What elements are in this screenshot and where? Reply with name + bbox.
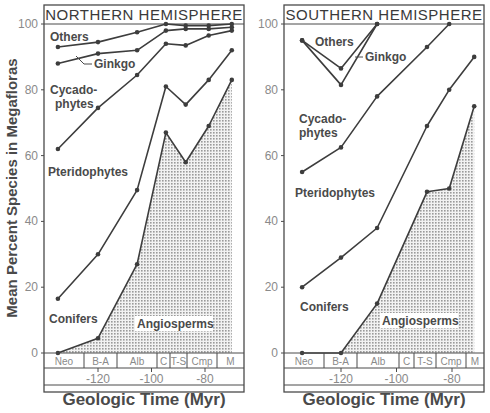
y-tick-label: 0 <box>271 346 278 360</box>
conifers-point <box>375 226 380 231</box>
y-tick-label: 0 <box>31 346 38 360</box>
south-label-conifers: Conifers <box>300 300 349 314</box>
stage-label: Alb <box>130 356 145 367</box>
conifers-point <box>56 296 61 301</box>
conifers-point <box>206 78 211 83</box>
pteridophytes-point <box>375 94 380 99</box>
conifers-point <box>135 188 140 193</box>
south-stage-row: NeoB-AAlbCT-SCmpM <box>284 353 484 368</box>
pteridophytes-point <box>56 147 61 152</box>
x-tick-label: -80 <box>443 372 461 386</box>
angiosperms-point <box>472 104 477 109</box>
ginkgo-point <box>183 23 188 28</box>
stage-label: C <box>160 356 167 367</box>
north-label-cycado-1: Cycado- <box>50 83 97 97</box>
ginkgo-point <box>206 23 211 28</box>
stage-label: B-A <box>332 356 349 367</box>
ginkgo-point <box>135 30 140 35</box>
north-title: NORTHERN HEMISPHERE <box>45 6 243 23</box>
conifers-point <box>164 84 169 89</box>
y-tick-label: 20 <box>265 280 279 294</box>
y-tick-label: 100 <box>18 17 38 31</box>
north-stage-row: NeoB-AAlbCT-SCmpM <box>44 353 244 368</box>
stage-label: Cmp <box>191 356 213 367</box>
pteridophytes-point <box>206 33 211 38</box>
conifers-point <box>183 102 188 107</box>
angiosperms-point <box>183 160 188 165</box>
angiosperms-point <box>135 262 140 267</box>
ginkgo-point <box>300 38 305 43</box>
angiosperms-point <box>206 124 211 129</box>
ginkgo-point <box>164 22 169 27</box>
stage-label: Alb <box>371 356 386 367</box>
ginkgo-point <box>56 45 61 50</box>
northern-hemisphere-panel: NORTHERN HEMISPHERE 020406080100 NeoB-AA… <box>18 5 244 409</box>
angiosperms-point <box>447 186 452 191</box>
stage-label: Neo <box>295 356 314 367</box>
cycadophytes-point <box>135 48 140 53</box>
pteridophytes-point <box>96 106 101 111</box>
x-tick-label: -120 <box>86 372 110 386</box>
y-tick-label: 40 <box>265 214 279 228</box>
pteridophytes-point <box>425 45 430 50</box>
north-x-ticks: -120-100-80 <box>86 368 214 386</box>
conifers-point <box>472 55 477 60</box>
cycadophytes-point <box>96 51 101 56</box>
x-tick-label: -100 <box>139 372 163 386</box>
stage-label: Neo <box>55 356 74 367</box>
pteridophytes-point <box>135 73 140 78</box>
angiosperms-point <box>425 190 430 195</box>
y-tick-label: 60 <box>25 149 39 163</box>
north-x-axis-title: Geologic Time (Myr) <box>62 390 225 409</box>
y-tick-label: 40 <box>25 214 39 228</box>
pteridophytes-point <box>300 170 305 175</box>
south-label-pteridophytes: Pteridophytes <box>295 186 375 200</box>
y-tick-label: 80 <box>25 83 39 97</box>
y-tick-label: 100 <box>258 17 278 31</box>
y-tick-label: 20 <box>25 280 39 294</box>
stage-label: T-S <box>171 356 187 367</box>
ginkgo-point <box>230 22 235 27</box>
north-label-pteridophytes: Pteridophytes <box>48 165 128 179</box>
stage-label: M <box>471 356 479 367</box>
y-tick-label: 80 <box>265 83 279 97</box>
north-label-conifers: Conifers <box>49 312 98 326</box>
southern-hemisphere-panel: SOUTHERN HEMISPHERE 020406080100 NeoB-AA… <box>258 5 484 409</box>
stage-label: Cmp <box>440 356 462 367</box>
conifers-point <box>425 124 430 129</box>
south-label-others: Others <box>315 35 354 49</box>
conifers-point <box>300 285 305 290</box>
ginkgo-point <box>339 66 344 71</box>
conifers-point <box>230 48 235 53</box>
south-x-axis-title: Geologic Time (Myr) <box>302 390 465 409</box>
ginkgo-point <box>375 22 380 27</box>
stage-label: M <box>226 356 234 367</box>
x-tick-label: -80 <box>196 372 214 386</box>
cycadophytes-point <box>164 28 169 33</box>
north-y-ticks: 020406080100 <box>18 17 44 360</box>
conifers-point <box>339 255 344 260</box>
stage-label: T-S <box>417 356 433 367</box>
pteridophytes-point <box>164 41 169 46</box>
south-label-cycado-1: Cycado- <box>299 112 346 126</box>
north-plot-area <box>56 22 235 356</box>
y-tick-label: 60 <box>265 149 279 163</box>
south-label-cycado-2: phytes <box>299 126 338 140</box>
south-x-ticks: -120-100-80 <box>329 368 461 386</box>
pteridophytes-point <box>183 43 188 48</box>
angiosperms-point <box>164 130 169 135</box>
y-axis-title: Mean Percent Species in Megafloras <box>3 58 20 317</box>
north-label-ginkgo: Ginkgo <box>94 57 135 71</box>
south-y-ticks: 020406080100 <box>258 17 284 360</box>
megaflora-chart: Mean Percent Species in Megafloras NORTH… <box>0 0 490 413</box>
stage-label: C <box>403 356 410 367</box>
south-label-angiosperms: Angiosperms <box>382 314 459 328</box>
angiosperms-point <box>375 301 380 306</box>
angiosperms-point <box>96 336 101 341</box>
angiosperms-point <box>230 78 235 83</box>
x-tick-label: -100 <box>384 372 408 386</box>
north-label-others: Others <box>50 30 89 44</box>
pteridophytes-point <box>339 145 344 150</box>
x-tick-label: -120 <box>329 372 353 386</box>
north-label-cycado-2: phytes <box>55 97 94 111</box>
